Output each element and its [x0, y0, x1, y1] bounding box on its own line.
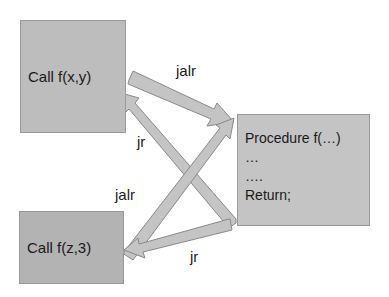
edge-label-jalr-top: jalr: [176, 62, 196, 79]
caller-box-2: Call f(z,3): [19, 211, 124, 284]
caller-label-2: Call f(z,3): [27, 239, 91, 256]
caller-label-1: Call f(x,y): [28, 68, 91, 85]
procedure-box: Procedure f(…) … …. Return;: [237, 114, 370, 226]
edge-label-jalr-bottom: jalr: [115, 186, 135, 203]
edge-label-jr-bottom: jr: [190, 248, 198, 265]
procedure-line-header: Procedure f(…): [245, 129, 369, 148]
caller-box-1: Call f(x,y): [20, 20, 126, 133]
procedure-line-return: Return;: [245, 186, 369, 205]
edge-label-jr-top: jr: [137, 133, 145, 150]
procedure-line-ellipsis-1: …: [245, 148, 369, 167]
procedure-line-ellipsis-2: ….: [245, 167, 369, 186]
